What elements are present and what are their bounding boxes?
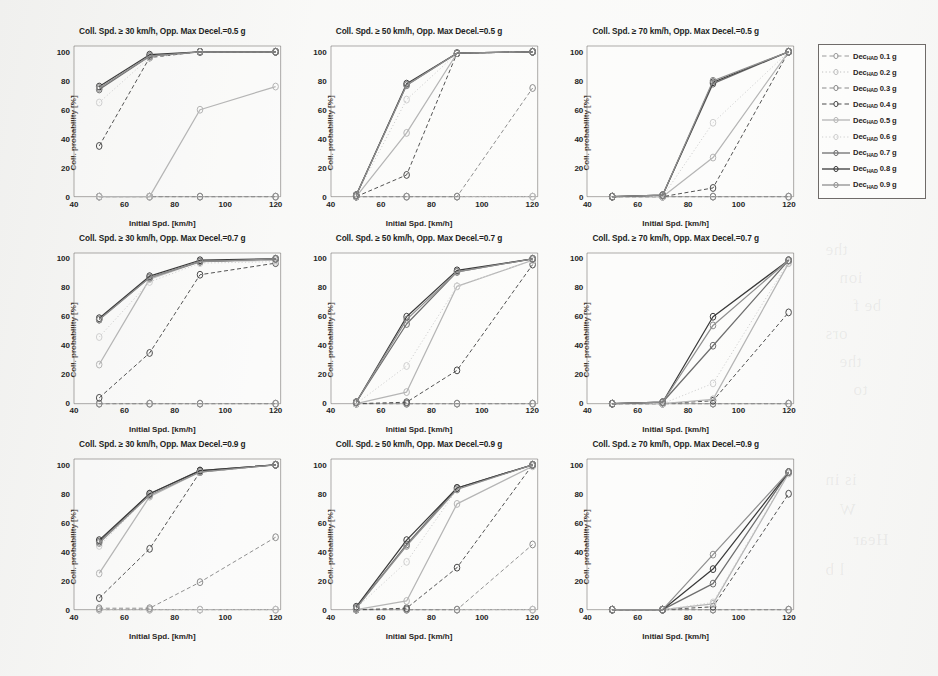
- axes: 020406080100406080100120: [74, 459, 281, 610]
- legend-item-label: DecHAD 0.4 g: [853, 100, 897, 109]
- x-tick-label: 120: [269, 613, 282, 622]
- y-tick-label: 60: [574, 105, 583, 114]
- plot-area-wrapper: Coll. probability [%]Initial Spd. [km/h]…: [291, 245, 548, 436]
- y-tick-label: 20: [318, 163, 327, 172]
- panel-title: Coll. Spd. ≥ 30 km/h, Opp. Max Decel.=0.…: [34, 439, 291, 449]
- y-tick-label: 40: [574, 134, 583, 143]
- legend-item-06[interactable]: DecHAD 0.6 g: [821, 128, 923, 144]
- panel-title: Coll. Spd. ≥ 30 km/h, Opp. Max Decel.=0.…: [34, 233, 291, 243]
- y-tick-label: 60: [574, 519, 583, 528]
- x-tick-label: 60: [120, 613, 129, 622]
- x-tick-label: 60: [120, 406, 129, 415]
- plot-area-wrapper: Coll. probability [%]Initial Spd. [km/h]…: [291, 38, 548, 229]
- legend-line-sample: [821, 98, 851, 110]
- y-tick-label: 80: [318, 76, 327, 85]
- y-tick-label: 100: [313, 461, 326, 470]
- y-tick-label: 20: [574, 577, 583, 586]
- axes: 020406080100406080100120: [331, 46, 538, 197]
- legend-item-07[interactable]: DecHAD 0.7 g: [821, 145, 923, 161]
- y-tick-label: 80: [318, 490, 327, 499]
- plot-box: [587, 46, 794, 197]
- y-tick-label: 40: [574, 548, 583, 557]
- y-tick-label: 20: [574, 163, 583, 172]
- y-tick-label: 100: [313, 254, 326, 263]
- legend-item-05[interactable]: DecHAD 0.5 g: [821, 112, 923, 128]
- x-tick-label: 80: [170, 613, 179, 622]
- y-tick-label: 40: [61, 548, 70, 557]
- x-tick-label: 100: [475, 613, 488, 622]
- y-tick-label: 100: [57, 47, 70, 56]
- y-tick-label: 100: [57, 254, 70, 263]
- axes: 020406080100406080100120: [74, 46, 281, 197]
- y-tick-label: 100: [570, 47, 583, 56]
- panel-title: Coll. Spd. ≥ 50 km/h, Opp. Max Decel.=0.…: [291, 233, 548, 243]
- panel-title: Coll. Spd. ≥ 50 km/h, Opp. Max Decel.=0.…: [291, 439, 548, 449]
- panel-grid: Coll. Spd. ≥ 30 km/h, Opp. Max Decel.=0.…: [34, 22, 804, 642]
- y-tick-label: 100: [570, 461, 583, 470]
- y-tick-label: 60: [61, 105, 70, 114]
- y-tick-label: 40: [318, 341, 327, 350]
- plot-canvas: [74, 253, 281, 404]
- y-tick-label: 60: [61, 312, 70, 321]
- panel-title: Coll. Spd. ≥ 70 km/h, Opp. Max Decel.=0.…: [547, 439, 804, 449]
- x-tick-label: 60: [633, 613, 642, 622]
- x-axis-label: Initial Spd. [km/h]: [547, 219, 804, 228]
- legend-line-sample: [821, 114, 851, 126]
- axes: 020406080100406080100120: [331, 459, 538, 610]
- legend-item-label: DecHAD 0.7 g: [853, 148, 897, 157]
- x-tick-label: 40: [70, 406, 79, 415]
- x-axis-label: Initial Spd. [km/h]: [547, 425, 804, 434]
- x-axis-label: Initial Spd. [km/h]: [291, 425, 548, 434]
- legend-item-01[interactable]: DecHAD 0.1 g: [821, 48, 923, 64]
- plot-box: [331, 459, 538, 610]
- x-tick-label: 80: [170, 200, 179, 209]
- legend-item-label: DecHAD 0.3 g: [853, 84, 897, 93]
- panel-title: Coll. Spd. ≥ 50 km/h, Opp. Max Decel.=0.…: [291, 26, 548, 36]
- plot-box: [331, 253, 538, 404]
- y-tick-label: 100: [313, 47, 326, 56]
- x-tick-label: 100: [475, 200, 488, 209]
- x-tick-label: 120: [782, 406, 795, 415]
- legend-item-04[interactable]: DecHAD 0.4 g: [821, 96, 923, 112]
- legend-item-02[interactable]: DecHAD 0.2 g: [821, 64, 923, 80]
- x-tick-label: 40: [583, 406, 592, 415]
- x-tick-label: 60: [377, 200, 386, 209]
- chart-panel-r2c2: Coll. Spd. ≥ 50 km/h, Opp. Max Decel.=0.…: [291, 229, 548, 436]
- x-axis-label: Initial Spd. [km/h]: [291, 632, 548, 641]
- plot-area-wrapper: Coll. probability [%]Initial Spd. [km/h]…: [34, 451, 291, 642]
- x-tick-label: 60: [633, 406, 642, 415]
- legend-item-label: DecHAD 0.1 g: [853, 52, 897, 61]
- x-tick-label: 60: [633, 200, 642, 209]
- legend-item-08[interactable]: DecHAD 0.8 g: [821, 161, 923, 177]
- x-axis-label: Initial Spd. [km/h]: [34, 425, 291, 434]
- legend: DecHAD 0.1 gDecHAD 0.2 gDecHAD 0.3 gDecH…: [818, 44, 926, 199]
- x-tick-label: 80: [427, 406, 436, 415]
- plot-area-wrapper: Coll. probability [%]Initial Spd. [km/h]…: [547, 245, 804, 436]
- x-tick-label: 40: [326, 613, 335, 622]
- legend-line-sample: [821, 147, 851, 159]
- x-tick-label: 120: [269, 200, 282, 209]
- y-tick-label: 100: [57, 461, 70, 470]
- plot-box: [331, 46, 538, 197]
- y-tick-label: 80: [61, 490, 70, 499]
- x-tick-label: 120: [782, 200, 795, 209]
- y-tick-label: 60: [574, 312, 583, 321]
- legend-item-label: DecHAD 0.5 g: [853, 116, 897, 125]
- legend-line-sample: [821, 66, 851, 78]
- plot-canvas: [587, 46, 794, 197]
- x-tick-label: 120: [526, 613, 539, 622]
- x-axis-label: Initial Spd. [km/h]: [291, 219, 548, 228]
- legend-item-03[interactable]: DecHAD 0.3 g: [821, 80, 923, 96]
- x-tick-label: 60: [377, 613, 386, 622]
- panel-title: Coll. Spd. ≥ 30 km/h, Opp. Max Decel.=0.…: [34, 26, 291, 36]
- legend-item-09[interactable]: DecHAD 0.9 g: [821, 177, 923, 193]
- y-tick-label: 60: [318, 312, 327, 321]
- y-tick-label: 20: [61, 163, 70, 172]
- legend-line-sample: [821, 82, 851, 94]
- axes: 020406080100406080100120: [74, 253, 281, 404]
- plot-canvas: [587, 253, 794, 404]
- y-tick-label: 40: [61, 134, 70, 143]
- y-tick-label: 40: [318, 548, 327, 557]
- plot-canvas: [587, 459, 794, 610]
- x-tick-label: 80: [427, 613, 436, 622]
